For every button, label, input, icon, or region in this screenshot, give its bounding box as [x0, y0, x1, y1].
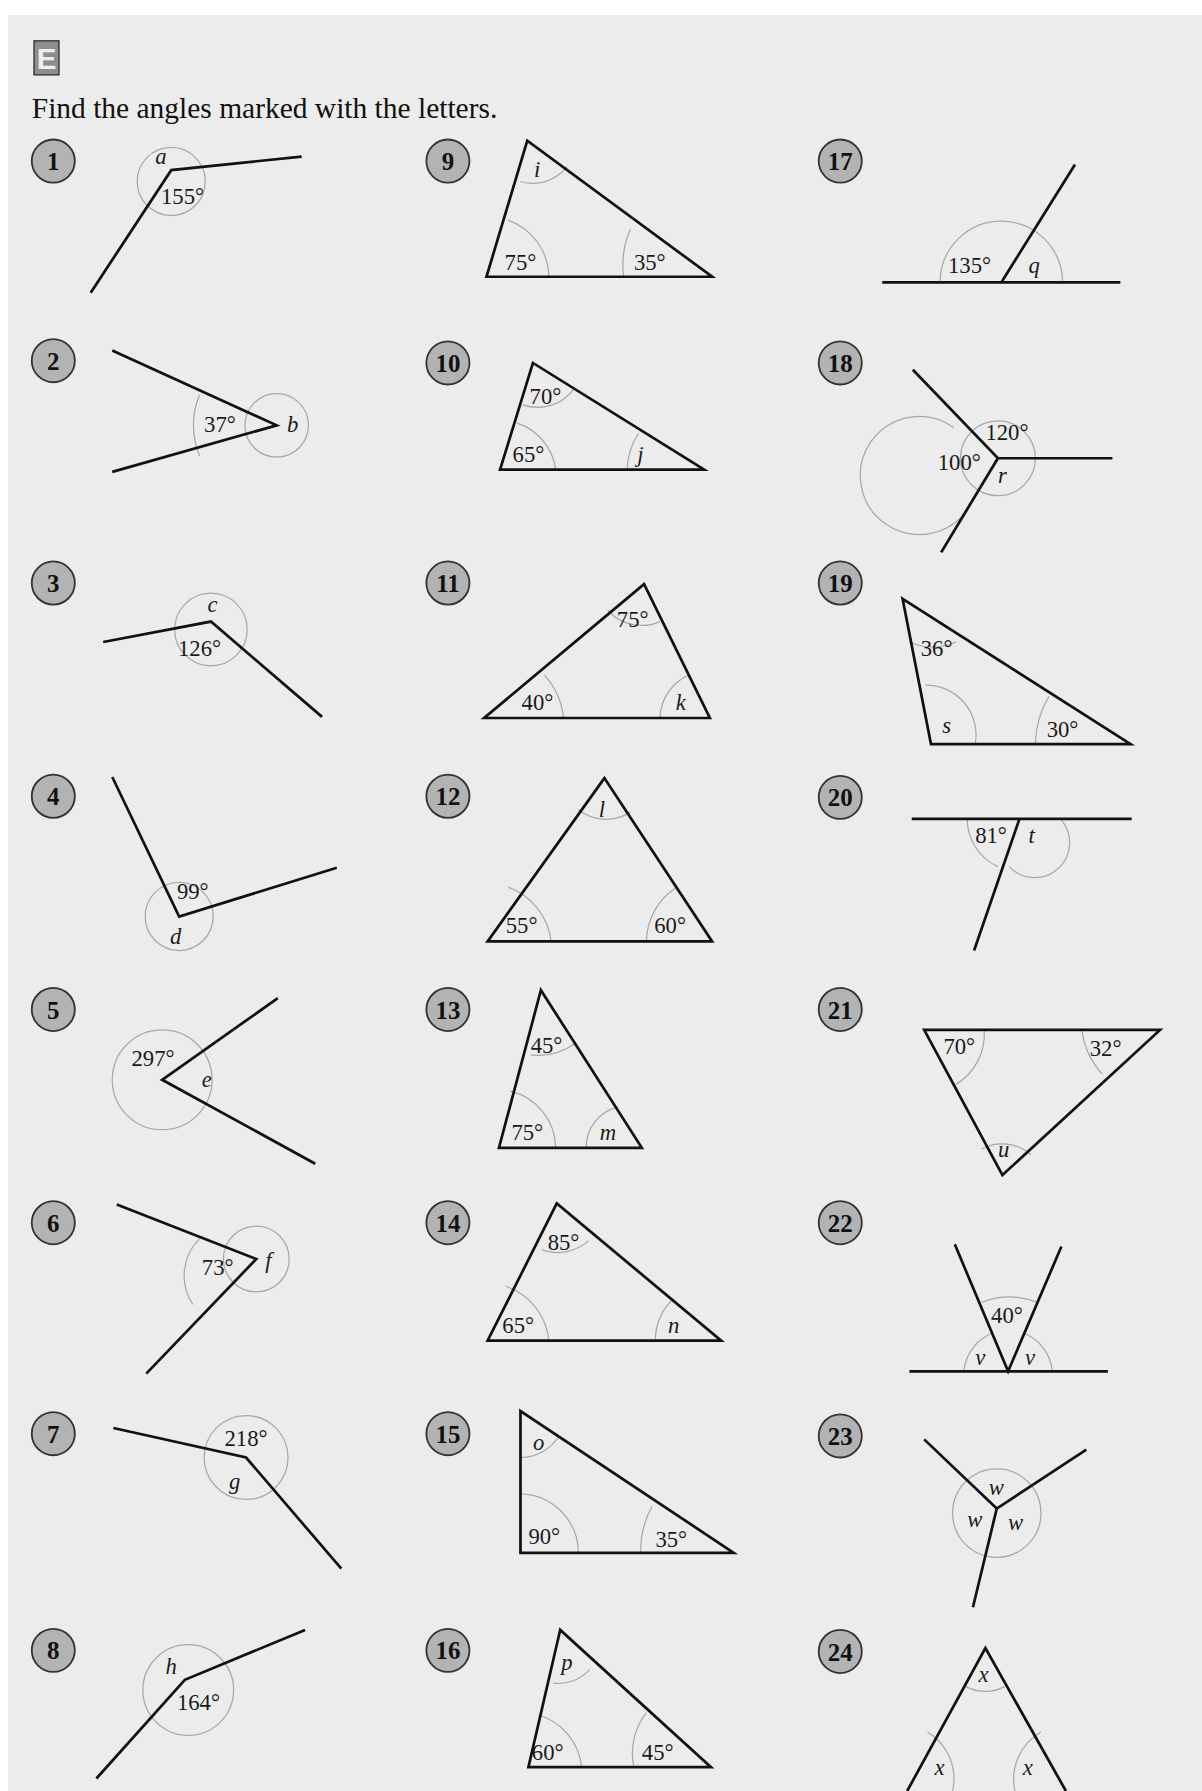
- angle-label: x: [1022, 1755, 1033, 1780]
- angle-label: 297°: [132, 1046, 175, 1071]
- angle-label: 45°: [642, 1740, 674, 1765]
- instruction-text: Find the angles marked with the letters.: [32, 92, 498, 124]
- angle-arc: [641, 1506, 652, 1553]
- problem-17: 17 135° q: [819, 140, 1121, 283]
- angle-label: 35°: [655, 1527, 687, 1552]
- problem-9: 9 i 75° 35°: [426, 140, 712, 277]
- angle-label: m: [600, 1120, 616, 1145]
- angle-label: n: [668, 1313, 679, 1338]
- angle-label: j: [634, 442, 643, 467]
- angle-label: x: [933, 1755, 944, 1780]
- angle-lines: [924, 1439, 1086, 1508]
- problem-number: 12: [435, 783, 460, 810]
- angle-label: r: [998, 463, 1007, 488]
- problem-1: 1 a 155°: [32, 140, 302, 293]
- problem-5: 5 297° e: [32, 988, 315, 1164]
- angle-label: l: [599, 797, 605, 822]
- angle-label: t: [1029, 823, 1036, 848]
- angle-label: 70°: [943, 1034, 975, 1059]
- problem-number: 18: [828, 350, 853, 377]
- angle-label: 75°: [617, 607, 649, 632]
- problem-number: 24: [828, 1639, 853, 1666]
- problem-number: 19: [828, 570, 853, 597]
- angle-lines: [91, 157, 302, 293]
- angle-lines: [112, 777, 337, 917]
- angle-label: 81°: [975, 823, 1007, 848]
- angle-label: 60°: [532, 1740, 564, 1765]
- angle-label: 37°: [204, 412, 236, 437]
- problem-number: 3: [47, 570, 59, 597]
- problem-number: 16: [435, 1637, 460, 1664]
- angle-label: v: [975, 1345, 986, 1370]
- angle-label: 135°: [948, 253, 991, 278]
- problem-number: 5: [47, 997, 59, 1024]
- angle-label: x: [978, 1662, 989, 1687]
- angle-label: 164°: [177, 1690, 220, 1715]
- angle-label: 32°: [1090, 1036, 1122, 1061]
- angle-label: i: [534, 157, 540, 182]
- angle-label: 99°: [177, 879, 209, 904]
- angle-label: v: [1025, 1345, 1036, 1370]
- problem-number: 2: [47, 348, 59, 375]
- problem-number: 20: [828, 784, 853, 811]
- angle-label: f: [265, 1248, 274, 1273]
- problem-number: 14: [435, 1210, 460, 1237]
- problem-number: 9: [442, 148, 454, 175]
- angle-label: 36°: [921, 636, 953, 661]
- angle-arc: [966, 1687, 1005, 1692]
- angle-label: 120°: [985, 420, 1028, 445]
- angle-label: c: [208, 592, 218, 617]
- angle-arc: [520, 167, 566, 184]
- angle-arc: [184, 1239, 199, 1305]
- angle-label: 155°: [161, 184, 204, 209]
- angle-label: p: [559, 1650, 572, 1675]
- problem-23: 23 w w w: [819, 1414, 1087, 1607]
- problem-4: 4 99° d: [32, 775, 337, 951]
- angle-label: k: [676, 690, 687, 715]
- angle-label: 218°: [225, 1426, 268, 1451]
- problem-number: 8: [47, 1637, 59, 1664]
- angle-label: 75°: [505, 250, 537, 275]
- problem-number: 1: [47, 148, 59, 175]
- problem-number: 7: [47, 1421, 59, 1448]
- angle-label: g: [229, 1469, 240, 1494]
- problem-7: 7 218° g: [32, 1412, 342, 1569]
- angle-label: 100°: [938, 450, 981, 475]
- section-letter: E: [34, 41, 59, 75]
- angle-label: 85°: [548, 1230, 580, 1255]
- problem-15: 15 o 90° 35°: [426, 1411, 733, 1553]
- problem-number: 11: [436, 570, 460, 597]
- angle-label: 75°: [511, 1120, 543, 1145]
- angle-arc: [860, 417, 968, 535]
- problem-number: 22: [828, 1210, 853, 1237]
- angle-label: 73°: [202, 1255, 234, 1280]
- angle-arc: [623, 229, 631, 277]
- angle-label: 55°: [506, 913, 538, 938]
- problem-6: 6 73° f: [32, 1201, 289, 1373]
- problem-number: 21: [828, 997, 853, 1024]
- angle-label: b: [287, 412, 298, 437]
- problem-8: 8 h 164°: [32, 1629, 305, 1779]
- problem-2: 2 37° b: [32, 339, 309, 472]
- problem-number: 13: [435, 997, 460, 1024]
- problem-10: 10 70° 65° j: [426, 341, 704, 469]
- worksheet: E Find the angles marked with the letter…: [0, 0, 1202, 1791]
- angle-label: 90°: [528, 1524, 560, 1549]
- problem-22: 22 40° v v: [819, 1201, 1108, 1371]
- angle-label: q: [1029, 253, 1040, 278]
- angle-arc: [1009, 819, 1069, 878]
- problem-16: 16 p 60° 45°: [426, 1629, 711, 1767]
- angle-label: o: [533, 1430, 544, 1455]
- problem-13: 13 45° 75° m: [426, 988, 641, 1148]
- problem-number: 15: [435, 1421, 460, 1448]
- problem-20: 20 81° t: [819, 776, 1132, 951]
- problem-14: 14 85° 65° n: [426, 1201, 721, 1341]
- angle-label: w: [967, 1507, 982, 1532]
- angle-label: w: [1008, 1510, 1023, 1535]
- angle-label: s: [942, 713, 951, 738]
- problem-number: 6: [47, 1210, 59, 1237]
- problem-21: 21 70° 32° u: [819, 988, 1160, 1175]
- problem-11: 11 75° 40° k: [426, 561, 709, 718]
- angle-lines: [117, 1205, 256, 1374]
- angle-label: 70°: [530, 384, 562, 409]
